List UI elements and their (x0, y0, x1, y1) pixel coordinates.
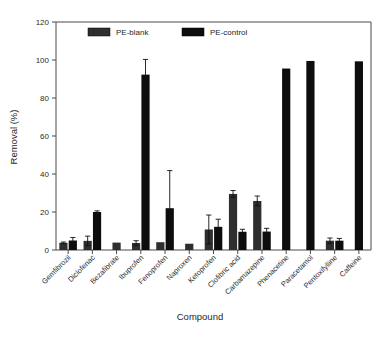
y-tick-label: 60 (40, 132, 49, 141)
bar-pe-blank (112, 243, 120, 250)
x-axis-title: Compound (177, 311, 223, 322)
chart-canvas: 020406080100120 GemfibrozilDiclofenacBez… (0, 0, 386, 341)
y-tick-label: 40 (40, 170, 49, 179)
bar-pe-blank (253, 201, 261, 250)
legend-label-pe-control: PE-control (210, 28, 248, 37)
y-axis-title: Removal (%) (8, 110, 19, 165)
bar-pe-control (306, 61, 314, 250)
legend-swatch-pe-blank (88, 28, 110, 36)
y-tick-label: 100 (36, 56, 50, 65)
bar-pe-blank (185, 244, 193, 250)
y-tick-label: 120 (36, 18, 50, 27)
y-tick-label: 20 (40, 208, 49, 217)
legend-swatch-pe-control (182, 28, 204, 36)
bar-pe-control (355, 61, 363, 250)
legend-label-pe-blank: PE-blank (116, 28, 149, 37)
chart-background (0, 0, 386, 341)
removal-bar-chart: 020406080100120 GemfibrozilDiclofenacBez… (0, 0, 386, 341)
y-tick-label: 80 (40, 94, 49, 103)
bar-pe-blank (156, 242, 164, 250)
y-tick-label: 0 (45, 246, 50, 255)
bar-pe-blank (229, 194, 237, 250)
bar-pe-control (93, 212, 101, 250)
bar-pe-control (141, 75, 149, 250)
bar-pe-control (282, 69, 290, 250)
